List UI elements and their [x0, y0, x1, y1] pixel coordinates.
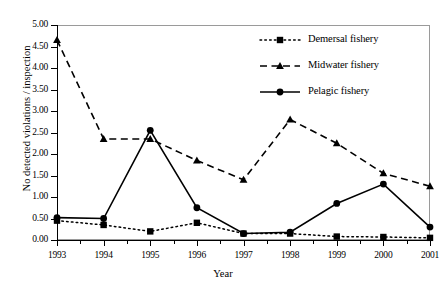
x-tick [290, 241, 291, 246]
x-tick-label: 1995 [127, 250, 173, 260]
legend-label: Pelagic fishery [308, 85, 369, 96]
y-tick [51, 68, 57, 69]
y-tick [51, 133, 57, 134]
x-tick-minor [127, 241, 128, 244]
x-tick [337, 241, 338, 246]
x-tick-label: 1996 [174, 250, 220, 260]
x-tick [383, 241, 384, 246]
x-tick-minor [220, 241, 221, 244]
y-tick [51, 154, 57, 155]
legend-item: Midwater fishery [258, 53, 428, 79]
x-tick-minor [267, 241, 268, 244]
x-tick-minor [407, 241, 408, 244]
x-tick-minor [80, 241, 81, 244]
x-tick-label: 2000 [360, 250, 406, 260]
x-tick-minor [313, 241, 314, 244]
legend-item: Pelagic fishery [258, 79, 428, 105]
x-tick [150, 241, 151, 246]
x-tick [104, 241, 105, 246]
y-tick-label: 0.00 [14, 235, 48, 245]
data-point-marker [277, 37, 283, 43]
y-tick [51, 47, 57, 48]
data-point-marker [277, 89, 284, 96]
legend-marker-icon [258, 27, 302, 53]
legend-label: Midwater fishery [308, 59, 379, 70]
legend-marker-icon [258, 53, 302, 79]
x-tick-label: 1999 [314, 250, 360, 260]
y-tick [51, 111, 57, 112]
x-tick-minor [360, 241, 361, 244]
y-tick [51, 197, 57, 198]
x-tick [430, 241, 431, 246]
chart-legend: Demersal fisheryMidwater fisheryPelagic … [258, 27, 428, 105]
x-tick-label: 2001 [407, 250, 446, 260]
x-tick [197, 241, 198, 246]
chart-figure: 0.000.501.001.502.002.503.003.504.004.50… [0, 0, 446, 288]
y-tick [51, 219, 57, 220]
x-axis-title: Year [0, 268, 446, 279]
x-tick-label: 1998 [267, 250, 313, 260]
x-tick-label: 1997 [221, 250, 267, 260]
x-tick-label: 1994 [81, 250, 127, 260]
legend-marker-icon [258, 79, 302, 105]
legend-label: Demersal fishery [308, 33, 378, 44]
x-tick-minor [174, 241, 175, 244]
x-tick [57, 241, 58, 246]
y-tick [51, 25, 57, 26]
x-tick [244, 241, 245, 246]
y-tick [51, 176, 57, 177]
y-tick-label: 0.50 [14, 214, 48, 224]
y-axis-title: No detected violations / inspection [21, 29, 32, 209]
y-axis-line [57, 25, 58, 241]
legend-item: Demersal fishery [258, 27, 428, 53]
x-tick-label: 1993 [34, 250, 80, 260]
y-tick [51, 90, 57, 91]
